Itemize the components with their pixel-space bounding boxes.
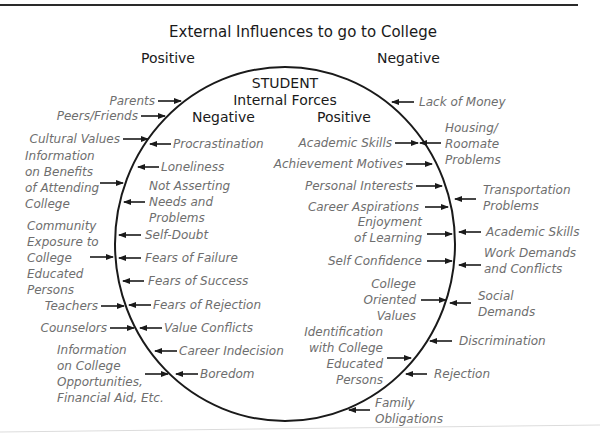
factor-line: Enjoyment: [358, 215, 424, 229]
factor-line: College: [27, 251, 72, 265]
internal-positive-factor: Career Aspirations: [308, 200, 419, 214]
external-negative-factor: SocialDemands: [478, 289, 535, 319]
factor-line: Career Aspirations: [308, 200, 419, 214]
factor-line: College: [25, 197, 70, 211]
external-positive-factor: Cultural Values: [30, 132, 120, 146]
internal-negative-factor: Boredom: [200, 367, 255, 381]
internal-positive-factor: CollegeOrientedValues: [364, 277, 417, 323]
external-positive-factor: Parents: [110, 94, 155, 108]
factor-line: Self-Doubt: [145, 228, 209, 242]
internal-negative-factor: Procrastination: [173, 137, 264, 151]
factor-line: of Learning: [354, 231, 422, 245]
factor-line: with College: [309, 341, 383, 355]
factor-line: Loneliness: [161, 160, 224, 174]
external-negative-factor: Housing/RoomateProblems: [445, 121, 501, 167]
factor-line: Community: [27, 219, 97, 233]
factor-line: Values: [377, 309, 416, 323]
factor-line: Opportunities,: [57, 375, 143, 389]
college-influences-diagram: External Influences to go to College Pos…: [0, 0, 600, 443]
factor-line: Teachers: [45, 299, 98, 313]
internal-negative-heading: Negative: [192, 109, 255, 125]
internal-negative-factor: Fears of Failure: [145, 251, 238, 265]
factor-line: Persons: [27, 283, 74, 297]
factor-line: Boredom: [200, 367, 255, 381]
factor-line: Information: [57, 343, 127, 357]
factor-line: Academic Skills: [485, 225, 579, 239]
factor-line: on College: [57, 359, 121, 373]
external-negative-factor: FamilyObligations: [375, 396, 443, 426]
factor-line: Lack of Money: [419, 95, 506, 109]
factor-line: Educated: [327, 357, 384, 371]
factor-line: Identification: [304, 325, 383, 339]
factor-line: and Conflicts: [484, 262, 562, 276]
external-negative-factor: Work Demandsand Conflicts: [484, 246, 576, 276]
factor-line: Cultural Values: [30, 132, 120, 146]
external-negative-factor: Discrimination: [459, 334, 546, 348]
factor-line: Housing/: [445, 121, 500, 135]
student-label: STUDENT: [252, 75, 319, 91]
internal-positive-heading: Positive: [317, 109, 371, 125]
page-edge: [0, 425, 600, 432]
factor-line: College: [371, 277, 416, 291]
factor-line: Transportation: [483, 183, 570, 197]
factor-line: Achievement Motives: [273, 157, 403, 171]
external-positive-factor: Counselors: [41, 321, 107, 335]
factor-line: on Benefits: [25, 165, 93, 179]
factor-line: Family: [375, 396, 416, 410]
factor-line: Problems: [483, 199, 539, 213]
external-negative-factor: Rejection: [434, 367, 490, 381]
factor-line: Academic Skills: [298, 136, 392, 150]
internal-negative-factor: Value Conflicts: [164, 321, 253, 335]
diagram-title: External Influences to go to College: [169, 23, 437, 41]
factor-line: Peers/Friends: [57, 109, 138, 123]
factor-line: Social: [478, 289, 514, 303]
factor-line: Problems: [149, 211, 205, 225]
internal-negative-factor: Not AssertingNeeds andProblems: [149, 179, 231, 225]
internal-positive-factor: Identificationwith CollegeEducatedPerson…: [304, 325, 383, 387]
factor-line: Financial Aid, Etc.: [57, 391, 164, 405]
internal-negative-factor: Fears of Rejection: [153, 298, 261, 312]
external-positive-factor: Informationon Benefitsof AttendingColleg…: [25, 149, 100, 211]
external-positive-factor: CommunityExposure toCollegeEducatedPerso…: [27, 219, 99, 297]
internal-negative-factor: Loneliness: [161, 160, 224, 174]
internal-positive-factor: Enjoymentof Learning: [354, 215, 423, 245]
factor-line: Counselors: [41, 321, 107, 335]
factor-line: Oriented: [364, 293, 417, 307]
external-negative-heading: Negative: [377, 50, 440, 66]
factor-line: Rejection: [434, 367, 490, 381]
external-positive-factor: Peers/Friends: [57, 109, 138, 123]
internal-forces-label: Internal Forces: [233, 92, 337, 108]
external-negative-factor: Lack of Money: [419, 95, 506, 109]
internal-positive-factor: Achievement Motives: [273, 157, 403, 171]
factor-line: of Attending: [25, 181, 100, 195]
internal-positive-factor: Academic Skills: [298, 136, 392, 150]
factor-line: Discrimination: [459, 334, 546, 348]
internal-negative-factor: Self-Doubt: [145, 228, 209, 242]
factor-line: Parents: [110, 94, 155, 108]
factor-line: Problems: [445, 153, 501, 167]
factor-line: Needs and: [149, 195, 213, 209]
external-negative-factor: Academic Skills: [485, 225, 579, 239]
factor-line: Value Conflicts: [164, 321, 253, 335]
internal-positive-factor: Self Confidence: [328, 254, 422, 268]
factor-line: Educated: [27, 267, 84, 281]
factor-line: Personal Interests: [305, 179, 413, 193]
external-negative-factor: TransportationProblems: [483, 183, 570, 213]
factor-line: Information: [25, 149, 95, 163]
factor-line: Procrastination: [173, 137, 264, 151]
factor-line: Not Asserting: [149, 179, 231, 193]
factor-line: Fears of Failure: [145, 251, 238, 265]
factor-line: Roomate: [445, 137, 499, 151]
internal-negative-factor: Fears of Success: [148, 274, 248, 288]
factor-line: Obligations: [375, 412, 443, 426]
factor-line: Fears of Success: [148, 274, 248, 288]
factor-line: Persons: [336, 373, 383, 387]
factor-labels: ParentsPeers/FriendsCultural ValuesInfor…: [25, 94, 579, 426]
factor-line: Demands: [478, 305, 535, 319]
internal-negative-factor: Career Indecision: [179, 344, 284, 358]
external-positive-factor: Teachers: [45, 299, 98, 313]
factor-line: Self Confidence: [328, 254, 422, 268]
external-positive-heading: Positive: [141, 50, 195, 66]
factor-line: Career Indecision: [179, 344, 284, 358]
factor-line: Exposure to: [27, 235, 99, 249]
